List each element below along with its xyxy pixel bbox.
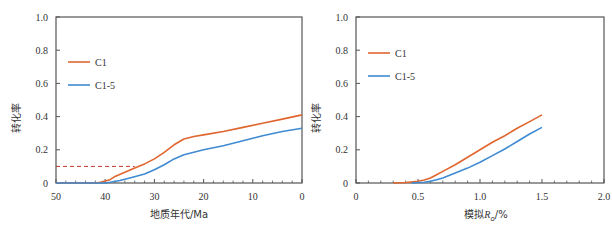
x-axis-title-var: R [483,209,490,220]
x-tick-label: 50 [51,191,61,202]
panel-left-chart: 00.20.40.60.81.050403020100C1C1-5转化率地质年代… [10,12,305,221]
series-line-c1-5 [56,128,302,183]
x-tick-label: 0 [354,191,359,202]
x-tick-label: 1.5 [536,191,549,202]
y-tick-label: 0.8 [36,45,49,56]
x-tick-label: 10 [248,191,258,202]
legend-label: C1-5 [395,71,415,82]
series-line-c1 [56,115,302,183]
x-tick-label: 1.0 [474,191,487,202]
x-tick-label: 0.5 [412,191,425,202]
legend-label: C1-5 [95,80,115,91]
y-axis-title: 转化率 [10,103,22,133]
y-tick-label: 0.6 [36,78,49,89]
plot-frame [356,17,604,183]
plot-frame [56,17,302,183]
y-tick-label: 0.2 [36,144,49,155]
legend-label: C1 [95,57,107,68]
figure: 00.20.40.60.81.050403020100C1C1-5转化率地质年代… [0,0,612,233]
x-axis-title-unit: /% [495,209,508,220]
y-tick-label: 0 [43,178,48,189]
y-tick-label: 0 [343,178,348,189]
x-axis-title-main: 模拟 [464,208,484,220]
legend-label: C1 [395,48,407,59]
series-line-c1-5 [412,127,542,183]
y-tick-label: 0.6 [336,78,349,89]
x-tick-label: 2.0 [598,191,611,202]
y-tick-label: 0.4 [36,111,49,122]
x-tick-label: 40 [100,191,110,202]
x-axis-title: 模拟Ro/% [464,208,507,223]
x-tick-label: 30 [149,191,159,202]
panel-right-chart: 00.20.40.60.81.000.51.01.52.0C1C1-5转化率模拟… [310,12,610,224]
x-axis-title: 地质年代/Ma [150,208,208,220]
y-tick-label: 0.4 [336,111,349,122]
x-tick-label: 20 [199,191,209,202]
y-axis-title: 转化率 [310,103,322,133]
x-tick-label: 0 [300,191,305,202]
y-tick-label: 0.8 [336,45,349,56]
y-tick-label: 1.0 [36,12,49,23]
series-line-c1 [393,115,542,183]
y-tick-label: 0.2 [336,144,349,155]
y-tick-label: 1.0 [336,12,349,23]
